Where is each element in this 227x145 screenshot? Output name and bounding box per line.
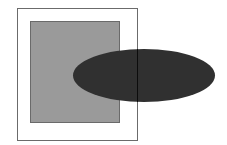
overlap-diagram [0,0,227,145]
dark-ellipse [73,49,215,102]
